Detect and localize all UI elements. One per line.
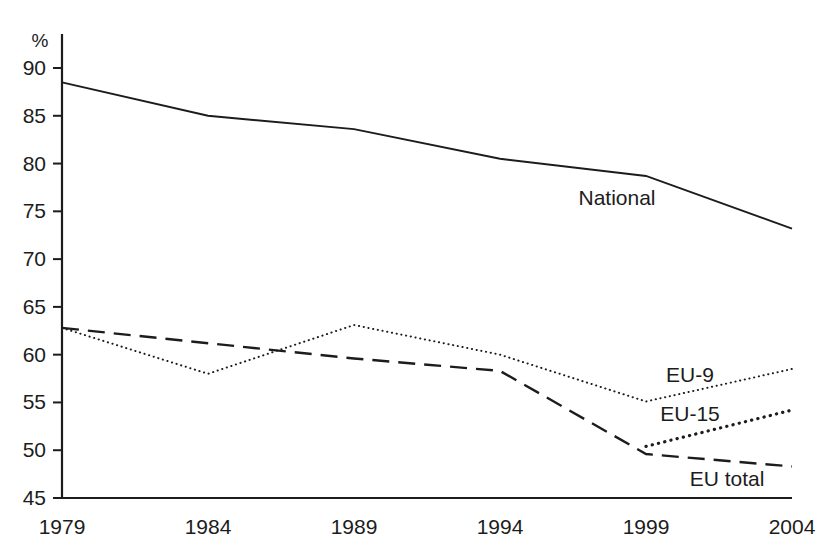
series-label-national: National xyxy=(578,186,655,209)
y-tick-label: 85 xyxy=(23,104,46,127)
series-label-eu-total: EU total xyxy=(690,467,765,490)
x-tick-label: 1979 xyxy=(39,515,86,538)
x-tick-label: 2004 xyxy=(769,515,816,538)
x-tick-label: 1989 xyxy=(331,515,378,538)
y-tick-label: 65 xyxy=(23,295,46,318)
series-label-eu-9: EU-9 xyxy=(666,363,714,386)
y-tick-label: 55 xyxy=(23,390,46,413)
y-tick-label: 75 xyxy=(23,199,46,222)
y-axis-unit-label: % xyxy=(32,30,49,51)
x-tick-label: 1984 xyxy=(185,515,232,538)
series-label-eu-15: EU-15 xyxy=(660,402,720,425)
x-tick-label: 1999 xyxy=(623,515,670,538)
y-tick-label: 50 xyxy=(23,438,46,461)
line-chart: % 45505560657075808590 19791984198919941… xyxy=(0,0,818,551)
y-tick-label: 60 xyxy=(23,343,46,366)
y-tick-label: 70 xyxy=(23,247,46,270)
y-tick-label: 90 xyxy=(23,56,46,79)
x-tick-label: 1994 xyxy=(477,515,524,538)
y-tick-label: 80 xyxy=(23,152,46,175)
chart-container: % 45505560657075808590 19791984198919941… xyxy=(0,0,818,551)
y-tick-label: 45 xyxy=(23,486,46,509)
